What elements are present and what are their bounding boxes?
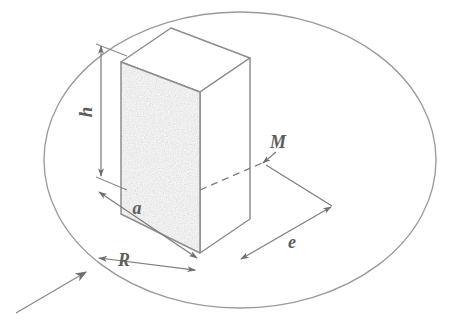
- dimension-height: h: [75, 44, 127, 190]
- dimension-edge: e: [241, 207, 331, 259]
- label-point-m: M: [269, 132, 287, 152]
- incoming-arrow-shaft: [16, 272, 86, 313]
- m-connector-line: [266, 165, 332, 206]
- dimension-radius: R: [99, 250, 196, 270]
- edge-dimension-line: [241, 207, 331, 259]
- label-thickness: a: [133, 198, 142, 218]
- incoming-arrow: [16, 272, 86, 313]
- m-arrow: [263, 152, 276, 163]
- radius-dimension-line: [99, 258, 196, 270]
- isometric-slab: [118, 28, 250, 258]
- slab-right-face: [200, 58, 250, 253]
- label-radius: R: [117, 250, 130, 270]
- diagram-root: h a R e M: [0, 0, 458, 325]
- label-edge: e: [288, 232, 296, 252]
- diagram-canvas: h a R e M: [0, 0, 458, 325]
- label-height: h: [75, 107, 96, 118]
